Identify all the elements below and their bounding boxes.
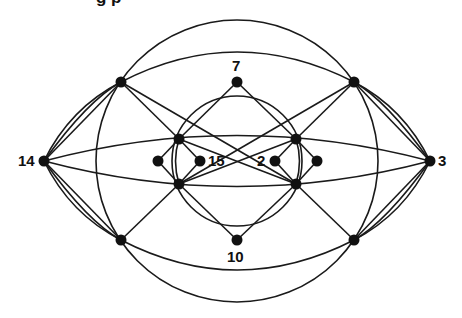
graph-node-3 — [425, 156, 436, 167]
graph-edge — [179, 82, 354, 184]
graph-node-14 — [39, 156, 50, 167]
labels-layer: 143710152 — [18, 57, 446, 265]
graph-edge — [354, 161, 430, 240]
graph-node-nILL — [174, 179, 185, 190]
cropped-title-fragment: g p — [96, 0, 122, 8]
graph-canvas: 143710152 — [0, 0, 462, 318]
graph-edge — [296, 184, 354, 240]
graph-node-7 — [232, 77, 243, 88]
graph-node-nLL — [153, 156, 164, 167]
graph-node-nBR — [349, 235, 360, 246]
graph-edge — [237, 184, 296, 240]
graph-edge — [237, 82, 296, 139]
graph-edge — [44, 161, 121, 240]
node-label-3: 3 — [438, 152, 446, 169]
node-label-14: 14 — [18, 152, 35, 169]
graph-edge — [179, 184, 237, 240]
graph-edge — [354, 82, 430, 161]
node-label-10: 10 — [227, 248, 244, 265]
node-label-2: 2 — [257, 152, 265, 169]
graph-node-nRR — [312, 156, 323, 167]
graph-diagram: g p 143710152 — [0, 0, 462, 318]
graph-node-2 — [270, 156, 281, 167]
graph-node-nIUL — [174, 134, 185, 145]
graph-edge — [176, 139, 180, 184]
graph-edge — [121, 184, 179, 240]
graph-edge — [44, 82, 121, 161]
graph-edge — [44, 136, 430, 162]
graph-node-10 — [232, 235, 243, 246]
graph-edge — [179, 82, 237, 139]
graph-node-nTR — [349, 77, 360, 88]
node-label-15: 15 — [208, 152, 225, 169]
graph-node-nILR — [291, 179, 302, 190]
graph-node-nIUR — [291, 134, 302, 145]
graph-node-nBL — [116, 235, 127, 246]
node-label-7: 7 — [232, 57, 240, 74]
graph-edge — [296, 139, 300, 184]
graph-node-15 — [195, 156, 206, 167]
graph-node-nTL — [116, 77, 127, 88]
graph-edge — [44, 161, 430, 187]
